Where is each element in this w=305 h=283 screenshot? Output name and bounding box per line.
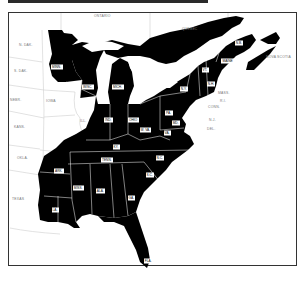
state-label-wisc: WISC. [82, 85, 94, 90]
label-iowa: IOWA [46, 99, 56, 103]
lake-michigan [98, 58, 108, 96]
label-nova-scotia: NOVA SCOTIA [266, 55, 291, 59]
svg-text:ALA.: ALA. [97, 189, 104, 193]
svg-text:MISS.: MISS. [74, 186, 83, 190]
label-s-dak: S. DAK. [14, 69, 27, 73]
state-label-miss: MISS. [73, 186, 84, 191]
label-mass: MASS. [218, 91, 230, 95]
svg-text:IND.: IND. [105, 118, 111, 122]
state-label-fla: FLA. [144, 259, 153, 264]
state-label-tenn: TENN. [101, 158, 113, 163]
state-label-mich: MICH. [112, 85, 124, 90]
state-label-w-va: W. VA. [140, 128, 151, 133]
svg-text:N.C.: N.C. [157, 156, 163, 160]
svg-text:PA.: PA. [166, 111, 171, 115]
label-quebec: QUEBEC [182, 27, 198, 31]
svg-text:S.C.: S.C. [147, 173, 153, 177]
label-okla: OKLA. [17, 156, 28, 160]
label-ontario: ONTARIO [94, 14, 111, 18]
svg-text:ARK.: ARK. [55, 169, 63, 173]
state-label-ga: GA. [128, 196, 135, 201]
label-conn: CONN. [208, 105, 220, 109]
label-ill: ILL. [80, 119, 86, 123]
svg-text:WISC.: WISC. [83, 85, 92, 89]
label-r-i: R.I. [220, 99, 226, 103]
state-label-pa: PA. [165, 111, 173, 116]
svg-text:N.Y.: N.Y. [181, 87, 187, 91]
state-label-minn: MINN. [51, 65, 63, 70]
region-cape-breton [260, 32, 280, 44]
svg-text:MAINE: MAINE [223, 59, 233, 63]
state-label-n-y: N.Y. [180, 87, 188, 92]
state-label-va: VA. [164, 131, 171, 136]
label-texas: TEXAS [12, 197, 25, 201]
svg-text:N.B.: N.B. [236, 41, 242, 45]
label-del: DEL. [207, 127, 215, 131]
highlighted-states [38, 16, 280, 268]
state-label-s-c: S.C. [146, 173, 154, 178]
svg-text:OHIO: OHIO [129, 118, 138, 122]
svg-text:GA.: GA. [129, 196, 135, 200]
state-label-md: MD. [172, 121, 180, 126]
state-label-la: LA. [52, 208, 59, 213]
state-label-ala: ALA. [96, 189, 105, 194]
region-florida [98, 212, 150, 268]
state-label-n-c: N.C. [156, 156, 164, 161]
state-label-ark: ARK. [54, 169, 64, 174]
svg-text:VT.: VT. [203, 68, 208, 72]
svg-text:VA.: VA. [165, 131, 170, 135]
map-canvas: ONTARIO QUEBEC N. DAK. S. DAK. NEBR. IOW… [0, 0, 305, 283]
state-label-n-b: N.B. [235, 41, 243, 46]
svg-text:MINN.: MINN. [52, 65, 61, 69]
label-n-j: N.J. [209, 118, 216, 122]
svg-text:TENN.: TENN. [102, 158, 112, 162]
state-label-ohio: OHIO [128, 118, 139, 123]
svg-text:MD.: MD. [173, 121, 179, 125]
state-label-ind: IND. [104, 118, 113, 123]
svg-text:LA.: LA. [53, 208, 58, 212]
svg-text:N.H.: N.H. [208, 82, 214, 86]
label-nebr: NEBR. [10, 98, 21, 102]
state-label-vt: VT. [202, 68, 209, 73]
label-n-dak: N. DAK. [19, 43, 33, 47]
svg-text:FLA.: FLA. [145, 259, 152, 263]
svg-text:W. VA.: W. VA. [141, 128, 151, 132]
label-kans: KANS. [14, 125, 25, 129]
svg-text:MICH.: MICH. [113, 85, 122, 89]
state-label-ky: KY. [113, 145, 120, 150]
state-label-n-h: N.H. [207, 82, 215, 87]
state-label-maine: MAINE [221, 59, 235, 64]
svg-text:KY.: KY. [114, 145, 119, 149]
